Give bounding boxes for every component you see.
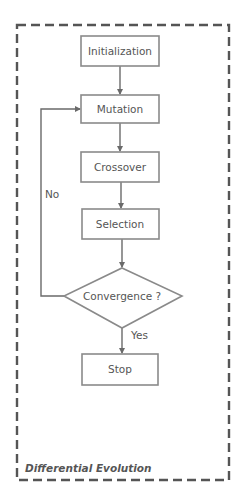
edge-label-yes: Yes [130,329,148,341]
node-initialization-label: Initialization [88,45,152,57]
node-convergence-label: Convergence ? [83,290,161,302]
node-mutation: Mutation [81,95,159,123]
node-mutation-label: Mutation [97,103,143,115]
node-crossover-label: Crossover [94,161,147,173]
edge-convergence-mutation-no [41,109,80,296]
node-selection-label: Selection [96,218,144,230]
node-selection: Selection [82,209,159,239]
node-stop-label: Stop [108,363,132,375]
node-crossover: Crossover [81,152,159,182]
node-initialization: Initialization [81,36,159,66]
node-convergence-decision: Convergence ? [64,268,182,328]
node-stop: Stop [82,354,158,385]
diagram-caption: Differential Evolution [25,462,152,474]
algorithm-frame [17,25,229,480]
edge-label-no: No [45,188,59,200]
flowchart: Initialization Mutation Crossover Select… [0,0,244,501]
